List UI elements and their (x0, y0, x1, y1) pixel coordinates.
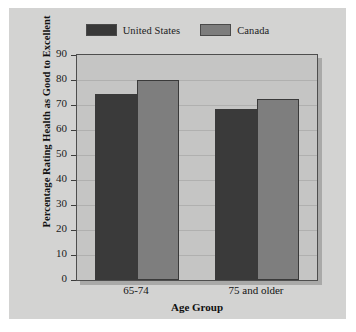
y-axis-tick: 80 (9, 80, 76, 81)
y-axis-ticks: 9080706050403020100 (9, 54, 76, 281)
y-axis-tick: 20 (9, 230, 76, 231)
y-axis-tick-label: 10 (56, 247, 67, 259)
y-axis-tick-label: 50 (56, 147, 67, 159)
legend-swatch-united-states (86, 24, 117, 36)
x-axis-category-label: 75 and older (196, 284, 316, 296)
chart-figure: United States Canada Percentage Rating H… (9, 8, 346, 319)
y-axis-tick: 50 (9, 155, 76, 156)
y-axis-tick-label: 80 (56, 72, 67, 84)
y-axis-tick: 40 (9, 180, 76, 181)
x-axis-category-label: 65-74 (76, 284, 196, 296)
x-axis-title: Age Group (76, 301, 318, 313)
legend-label-canada: Canada (237, 25, 269, 36)
y-axis-tick: 10 (9, 255, 76, 256)
y-axis-tick: 0 (9, 280, 76, 281)
bar-canada-75-and-older[interactable] (257, 99, 299, 280)
legend-label-united-states: United States (123, 25, 181, 36)
y-axis-tick: 70 (9, 105, 76, 106)
y-axis-tick-label: 40 (56, 172, 67, 184)
bar-canada-65-74[interactable] (137, 80, 179, 280)
y-axis-tick-label: 20 (56, 222, 67, 234)
y-axis-tick-label: 30 (56, 197, 67, 209)
y-axis-tick: 30 (9, 205, 76, 206)
y-axis-tick: 90 (9, 55, 76, 56)
bar-united-states-65-74[interactable] (95, 94, 137, 280)
legend-item-united-states[interactable]: United States (86, 24, 181, 36)
plot-area-wrapper (76, 54, 318, 281)
plot-area (76, 54, 318, 281)
bar-united-states-75-and-older[interactable] (215, 109, 257, 280)
y-axis-tick-label: 60 (56, 122, 67, 134)
y-axis-tick-label: 0 (62, 272, 68, 284)
y-axis-tick-label: 70 (56, 97, 67, 109)
gridline (77, 80, 317, 81)
legend-item-canada[interactable]: Canada (200, 24, 269, 36)
chart-legend: United States Canada (9, 24, 346, 36)
legend-swatch-canada (200, 24, 231, 36)
y-axis-tick: 60 (9, 130, 76, 131)
x-axis-category-labels: 65-7475 and older (76, 284, 318, 300)
y-axis-tick-label: 90 (56, 47, 67, 59)
